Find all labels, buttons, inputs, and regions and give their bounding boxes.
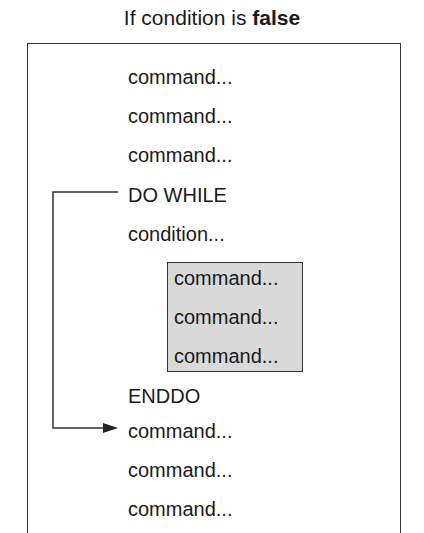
skip-arrow-icon [0,0,424,518]
